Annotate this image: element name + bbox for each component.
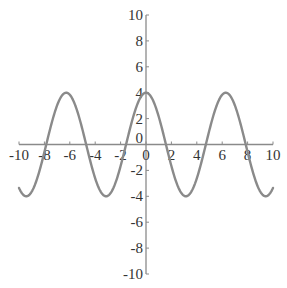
x-tick-label: 0 (142, 147, 150, 163)
x-tick-label: -6 (64, 147, 77, 163)
x-tick-label: 10 (266, 147, 281, 163)
x-tick-label: -10 (9, 147, 29, 163)
y-tick-label: -10 (123, 266, 143, 282)
y-tick-label: 10 (128, 7, 143, 23)
y-tick-label: 2 (136, 111, 144, 127)
y-tick-label: -6 (131, 214, 144, 230)
y-tick-label: 0 (136, 130, 144, 146)
x-tick-label: 6 (218, 147, 226, 163)
y-tick-label: -2 (131, 162, 144, 178)
y-tick-label: 8 (136, 33, 144, 49)
y-tick-label: 6 (136, 59, 144, 75)
x-tick-label: 4 (193, 147, 201, 163)
function-plot: -10-8-6-4-20246810-10-8-6-4-20246810 (0, 0, 287, 288)
y-tick-label: -4 (131, 188, 144, 204)
y-tick-label: -8 (131, 240, 144, 256)
